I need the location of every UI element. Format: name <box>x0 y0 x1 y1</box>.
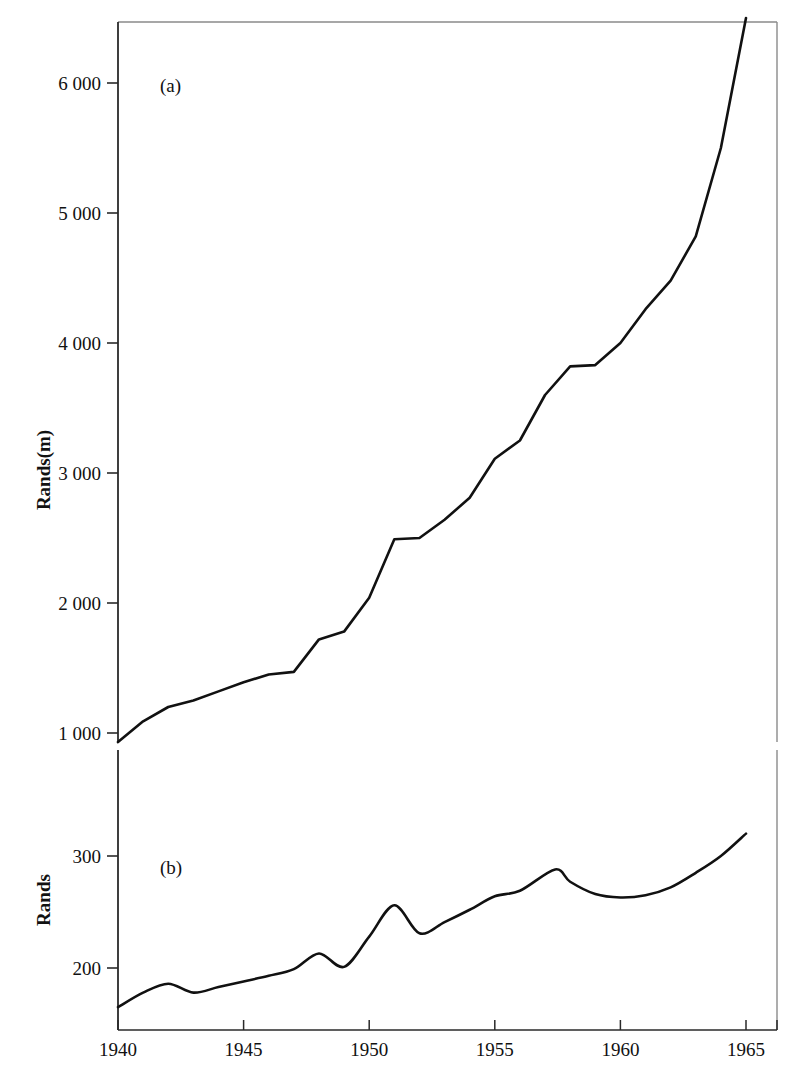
panel-b-y-axis-title: Rands <box>33 874 54 926</box>
panel-b-y-tick-labels: 200300 <box>73 846 102 979</box>
x-axis-tick-label: 1945 <box>225 1039 263 1060</box>
panel-a-y-tick-label: 2 000 <box>58 593 101 614</box>
panel-a-data-line <box>118 18 746 742</box>
panel-a-y-tick-label: 6 000 <box>58 73 101 94</box>
x-axis-tick-labels: 194019451950195519601965 <box>99 1039 765 1060</box>
two-panel-line-chart: 1 0002 0003 0004 0005 0006 000 (a) Rands… <box>0 0 808 1078</box>
panel-b-y-tick-label: 200 <box>73 958 102 979</box>
panel-b-data-line <box>118 834 746 1008</box>
panel-a-frame <box>107 22 777 742</box>
panel-a-y-ticks <box>107 83 118 733</box>
x-axis-tick-label: 1940 <box>99 1039 137 1060</box>
panel-a-y-tick-labels: 1 0002 0003 0004 0005 0006 000 <box>58 73 101 744</box>
panel-a-y-tick-label: 3 000 <box>58 463 101 484</box>
figure-root: 1 0002 0003 0004 0005 0006 000 (a) Rands… <box>0 0 808 1078</box>
panel-a-y-tick-label: 1 000 <box>58 723 101 744</box>
x-axis-tick-label: 1960 <box>601 1039 639 1060</box>
x-axis-tick-label: 1965 <box>727 1039 765 1060</box>
panel-b-frame <box>107 750 777 1030</box>
panel-b-y-tick-label: 300 <box>73 846 102 867</box>
x-axis-tick-label: 1950 <box>350 1039 388 1060</box>
panel-a-y-tick-label: 4 000 <box>58 333 101 354</box>
panel-a-label: (a) <box>160 75 181 97</box>
panel-a-y-tick-label: 5 000 <box>58 203 101 224</box>
panel-b-y-ticks <box>107 856 118 968</box>
panel-b-x-ticks <box>118 1020 777 1030</box>
x-axis-tick-label: 1955 <box>476 1039 514 1060</box>
panel-b-label: (b) <box>160 857 182 879</box>
panel-a-y-axis-title: Rands(m) <box>33 430 55 510</box>
